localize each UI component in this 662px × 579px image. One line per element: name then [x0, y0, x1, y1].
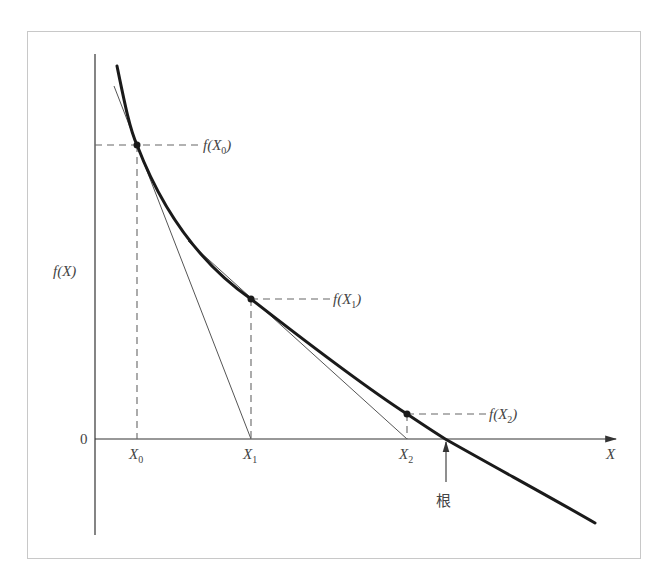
x0-label: X0	[129, 447, 143, 465]
root-label: 根	[436, 494, 451, 509]
point-fx1	[248, 296, 255, 303]
origin-label: 0	[80, 432, 88, 447]
y-axis-label: f(X)	[53, 264, 76, 279]
fx0-label: f(X0)	[203, 138, 231, 156]
point-fx0	[134, 142, 141, 149]
x1-label: X1	[243, 447, 257, 465]
tangent-line-x1	[188, 241, 407, 439]
point-fx2	[404, 411, 411, 418]
fx1-label: f(X1)	[333, 292, 361, 310]
newton-raphson-diagram	[0, 0, 662, 579]
fx2-label: f(X2)	[489, 407, 517, 425]
x2-label: X2	[399, 447, 413, 465]
x-axis-label: X	[606, 447, 615, 462]
